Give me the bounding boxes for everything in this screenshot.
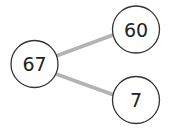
part-node-1: 60 xyxy=(113,6,160,53)
whole-value: 67 xyxy=(22,53,46,75)
part-1-value: 60 xyxy=(124,19,148,41)
edge-whole-to-part-2 xyxy=(56,74,114,95)
number-bond-diagram: 67 60 7 xyxy=(0,0,172,128)
whole-node: 67 xyxy=(11,41,58,88)
part-2-value: 7 xyxy=(130,89,142,111)
edge-whole-to-part-1 xyxy=(56,35,113,56)
part-node-2: 7 xyxy=(113,77,160,124)
